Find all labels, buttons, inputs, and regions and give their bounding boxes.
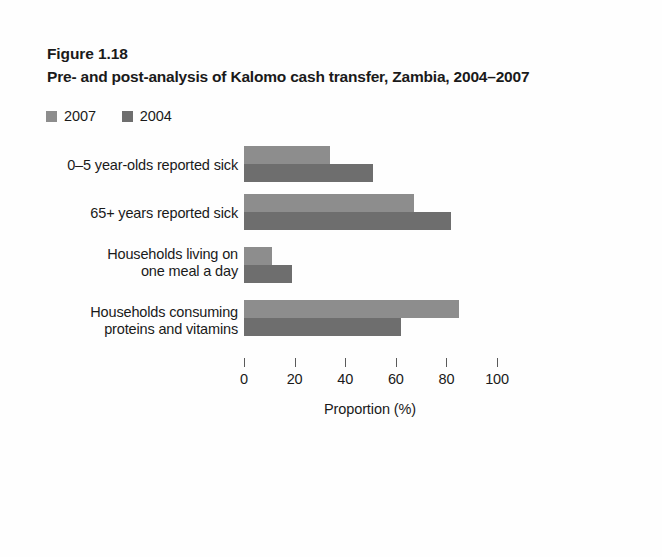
x-axis-title: Proportion (%): [324, 401, 416, 417]
figure-container: Figure 1.18 Pre- and post-analysis of Ka…: [0, 0, 662, 557]
category-label-1: 65+ years reported sick: [90, 205, 238, 222]
bar-2007-1: [244, 194, 414, 212]
tick-mark-3: [396, 358, 397, 367]
category-label-3: Households consuming proteins and vitami…: [90, 304, 238, 338]
plot-area: 0–5 year-olds reported sick 65+ years re…: [0, 0, 662, 557]
tick-mark-0: [244, 358, 245, 367]
tick-mark-5: [497, 358, 498, 367]
bar-2004-3: [244, 318, 401, 336]
tick-label-3: 60: [388, 371, 404, 387]
tick-label-1: 20: [287, 371, 303, 387]
tick-mark-4: [446, 358, 447, 367]
tick-mark-1: [295, 358, 296, 367]
tick-label-5: 100: [485, 371, 509, 387]
bar-2004-2: [244, 265, 292, 283]
category-label-0: 0–5 year-olds reported sick: [67, 157, 238, 174]
tick-label-0: 0: [240, 371, 248, 387]
bar-2007-2: [244, 247, 272, 265]
tick-label-4: 80: [439, 371, 455, 387]
bar-2004-1: [244, 212, 451, 230]
bar-2007-3: [244, 300, 459, 318]
tick-label-2: 40: [337, 371, 353, 387]
category-label-2: Households living on one meal a day: [107, 246, 238, 280]
tick-mark-2: [345, 358, 346, 367]
bar-2007-0: [244, 146, 330, 164]
bar-2004-0: [244, 164, 373, 182]
